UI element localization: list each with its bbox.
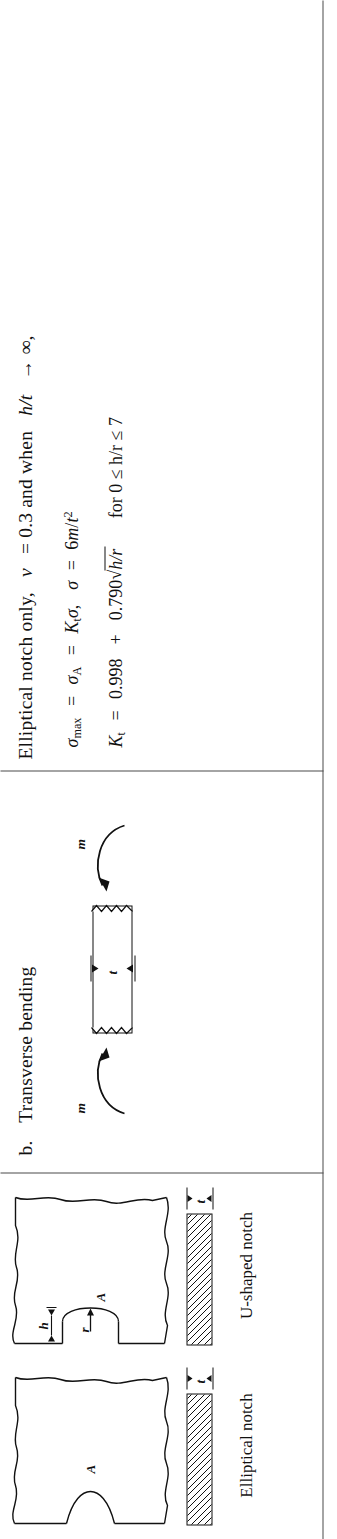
kt-plus-sign: + — [105, 634, 125, 644]
ushaped-plate-edge-view: t — [186, 1195, 216, 1345]
sigma-symbol-4: σ — [61, 580, 81, 589]
figure-ushaped-notch: h r A t U-shaped — [0, 1177, 323, 1353]
moment-label-right: m — [72, 838, 88, 849]
formula-heading-lead: Elliptical notch only, — [14, 592, 35, 759]
page-canvas: A t Elliptical notch — [0, 0, 337, 1539]
panel-transverse-bending: b. Transverse bending — [0, 771, 323, 1171]
thickness-exponent: 2 — [60, 511, 74, 517]
moment-arc-right — [88, 819, 134, 905]
kt-symbol-2: K — [105, 735, 125, 747]
bending-heading-index: b. — [14, 1140, 35, 1155]
elliptical-hatched-plate — [186, 1393, 212, 1525]
ushaped-width-label-h: h — [35, 1322, 51, 1329]
ushaped-thickness-dimension: t — [180, 1187, 220, 1209]
kt-symbol-1: K — [61, 621, 81, 633]
ushaped-point-label-A: A — [92, 1292, 108, 1301]
sigma-subscript-max: max — [70, 717, 84, 738]
equation-sigma-max: σmax = σA = Ktσ, σ = 6m/t2 — [60, 511, 85, 747]
moment-label-left: m — [72, 1102, 88, 1113]
moment-symbol: m — [61, 527, 81, 540]
sqrt-symbol: h/r — [104, 546, 126, 579]
ushaped-notch-caption: U-shaped notch — [236, 1177, 256, 1353]
bending-thickness-dimension: t — [86, 955, 138, 981]
formula-heading-arrow: → ∞, — [14, 335, 35, 379]
elliptical-plate-edge-view: t — [186, 1375, 216, 1525]
kt-constant-b: 0.790 — [105, 579, 125, 620]
ushaped-body-outline: h r A — [6, 1195, 174, 1345]
sigma-symbol-3: σ — [61, 609, 81, 618]
ushaped-hatched-plate — [186, 1213, 212, 1345]
figure-elliptical-notch: A t Elliptical notch — [0, 1357, 323, 1533]
panel-formulas: Elliptical notch only, ν = 0.3 and when … — [0, 0, 323, 769]
kt-subscript-2: t — [113, 732, 127, 735]
kt-constant-a: 0.998 — [105, 658, 125, 699]
thickness-symbol: t — [61, 517, 81, 522]
sigma-subscript-A: A — [70, 666, 84, 675]
elliptical-thickness-dimension: t — [180, 1367, 220, 1389]
elliptical-point-label-A: A — [82, 1464, 98, 1473]
moment-arc-left — [88, 1033, 134, 1119]
bending-thickness-label: t — [104, 970, 120, 974]
ushaped-radius-label-r: r — [76, 1327, 92, 1332]
poisson-ratio-symbol: ν — [14, 568, 35, 577]
ushaped-thickness-label: t — [192, 1199, 208, 1203]
sigma-symbol-1: σ — [61, 738, 81, 747]
equation-kt: Kt = 0.998 + 0.790h/r for 0 ≤ h/r ≤ 7 — [104, 417, 128, 748]
panel-notch-figures: A t Elliptical notch — [0, 1173, 323, 1539]
bending-figure: t m m — [66, 853, 158, 1085]
kt-radicand: h/r — [104, 546, 126, 570]
elliptical-thickness-label: t — [192, 1379, 208, 1383]
bending-heading: b. Transverse bending — [14, 966, 36, 1155]
sigma-symbol-2: σ — [61, 675, 81, 684]
formula-heading-eq: = 0.3 and when — [14, 430, 35, 553]
kt-condition: for 0 ≤ h/r ≤ 7 — [105, 417, 125, 518]
bending-stress-coefficient: 6 — [61, 540, 81, 549]
elliptical-body-outline: A — [6, 1375, 174, 1525]
h-over-t-ratio: h/t — [14, 394, 35, 415]
elliptical-notch-caption: Elliptical notch — [236, 1357, 256, 1533]
bending-heading-text: Transverse bending — [14, 966, 35, 1122]
formula-heading: Elliptical notch only, ν = 0.3 and when … — [14, 335, 36, 759]
document-sheet: A t Elliptical notch — [0, 0, 337, 1539]
